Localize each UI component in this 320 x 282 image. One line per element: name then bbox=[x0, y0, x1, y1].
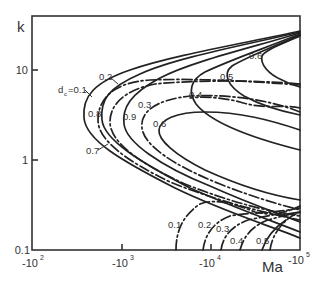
label-bottom-0.4: 0.4 bbox=[230, 235, 243, 246]
curve-0.6-upper bbox=[262, 36, 300, 87]
label-bottom-0.5: 0.5 bbox=[256, 235, 269, 246]
svg-text:-10: -10 bbox=[199, 257, 215, 269]
label-bottom-0.1: 0.1 bbox=[168, 219, 181, 230]
x-tick-1e2: -10 2 bbox=[22, 254, 44, 269]
label-bottom-0.2: 0.2 bbox=[198, 219, 211, 230]
label-0.4: 0.4 bbox=[189, 89, 202, 100]
label-dc: d bbox=[58, 84, 63, 95]
x-axis-title: Ma bbox=[262, 258, 283, 275]
label-0.2: 0.2 bbox=[99, 71, 112, 82]
curves bbox=[84, 31, 300, 250]
label-dc-value: =0.1 bbox=[68, 84, 87, 95]
x-tick-1e5: -10 5 bbox=[288, 251, 310, 266]
label-0.7: 0.7 bbox=[86, 145, 99, 156]
label-0.6-inner: 0.6 bbox=[153, 118, 166, 129]
label-bottom-0.3: 0.3 bbox=[216, 223, 229, 234]
svg-text:-10: -10 bbox=[112, 257, 128, 269]
svg-text:-10: -10 bbox=[288, 254, 304, 266]
curve-0.1 bbox=[84, 31, 300, 238]
curve-0.4 bbox=[191, 34, 300, 150]
y-tick-0.1: 0.1 bbox=[15, 244, 30, 256]
x-tick-1e3: -10 3 bbox=[112, 254, 134, 269]
label-0.9: 0.9 bbox=[123, 111, 136, 122]
svg-text:2: 2 bbox=[40, 254, 44, 261]
y-tick-10: 10 bbox=[16, 64, 28, 76]
x-tick-1e4: -10 4 bbox=[199, 254, 221, 269]
svg-text:-10: -10 bbox=[22, 257, 38, 269]
curve-0.5 bbox=[227, 35, 300, 115]
y-axis-title: k bbox=[17, 18, 25, 35]
svg-text:3: 3 bbox=[130, 254, 134, 261]
y-axis bbox=[32, 70, 38, 160]
label-0.6-upper: 0.6 bbox=[249, 50, 262, 61]
y-tick-1: 1 bbox=[22, 154, 28, 166]
label-0.5: 0.5 bbox=[220, 71, 233, 82]
x-axis bbox=[122, 244, 211, 250]
svg-text:c: c bbox=[64, 91, 67, 97]
svg-text:5: 5 bbox=[306, 251, 310, 258]
stability-chart: 10 1 0.1 -10 2 -10 3 -10 4 -10 5 k Ma bbox=[0, 0, 320, 282]
label-0.3: 0.3 bbox=[138, 99, 151, 110]
svg-text:4: 4 bbox=[217, 254, 221, 261]
label-0.8: 0.8 bbox=[88, 108, 101, 119]
